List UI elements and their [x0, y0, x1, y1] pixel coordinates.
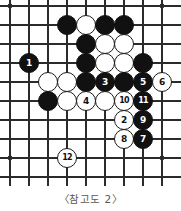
black-stone[interactable]: [57, 15, 77, 35]
white-stone[interactable]: [76, 15, 96, 35]
white-stone[interactable]: [95, 91, 115, 111]
black-stone[interactable]: [76, 34, 96, 54]
numbered-stone-4[interactable]: 4: [76, 91, 96, 111]
black-stone[interactable]: [95, 15, 115, 35]
numbered-stone-3[interactable]: 3: [95, 72, 115, 92]
star-point: [160, 4, 165, 9]
numbered-stone-10[interactable]: 10: [114, 91, 134, 111]
white-stone[interactable]: [114, 53, 134, 73]
white-stone[interactable]: [95, 34, 115, 54]
star-point: [160, 156, 165, 161]
numbered-stone-9[interactable]: 9: [133, 110, 153, 130]
white-stone[interactable]: [114, 34, 134, 54]
black-stone[interactable]: [76, 53, 96, 73]
numbered-stone-2[interactable]: 2: [114, 110, 134, 130]
star-point: [8, 156, 13, 161]
numbered-stone-11[interactable]: 11: [133, 91, 153, 111]
stone-number-label: 10: [119, 97, 129, 105]
numbered-stone-7[interactable]: 7: [133, 129, 153, 149]
stone-number-label: 1: [26, 59, 32, 68]
white-stone[interactable]: [57, 91, 77, 111]
stone-number-label: 7: [140, 135, 146, 144]
go-board[interactable]: 135641011298712: [0, 0, 181, 186]
star-point: [8, 4, 13, 9]
stone-number-label: 9: [140, 116, 146, 125]
stone-number-label: 5: [140, 78, 146, 87]
stone-number-label: 11: [138, 97, 148, 105]
numbered-stone-8[interactable]: 8: [114, 129, 134, 149]
white-stone[interactable]: [95, 53, 115, 73]
white-stone[interactable]: [38, 72, 58, 92]
stone-number-label: 6: [159, 78, 165, 87]
stone-number-label: 2: [121, 116, 127, 125]
numbered-stone-6[interactable]: 6: [152, 72, 172, 92]
black-stone[interactable]: [133, 53, 153, 73]
black-stone[interactable]: [38, 91, 58, 111]
stone-number-label: 4: [83, 97, 89, 106]
figure-caption: 〈참고도 2〉: [0, 186, 181, 211]
black-stone[interactable]: [114, 15, 134, 35]
black-stone[interactable]: [114, 72, 134, 92]
stone-number-label: 12: [62, 154, 72, 162]
numbered-stone-12[interactable]: 12: [57, 148, 77, 168]
white-stone[interactable]: [57, 72, 77, 92]
numbered-stone-1[interactable]: 1: [19, 53, 39, 73]
black-stone[interactable]: [76, 72, 96, 92]
stone-number-label: 8: [121, 135, 127, 144]
stone-number-label: 3: [102, 78, 108, 87]
go-diagram-figure: 135641011298712 〈참고도 2〉: [0, 0, 181, 211]
numbered-stone-5[interactable]: 5: [133, 72, 153, 92]
